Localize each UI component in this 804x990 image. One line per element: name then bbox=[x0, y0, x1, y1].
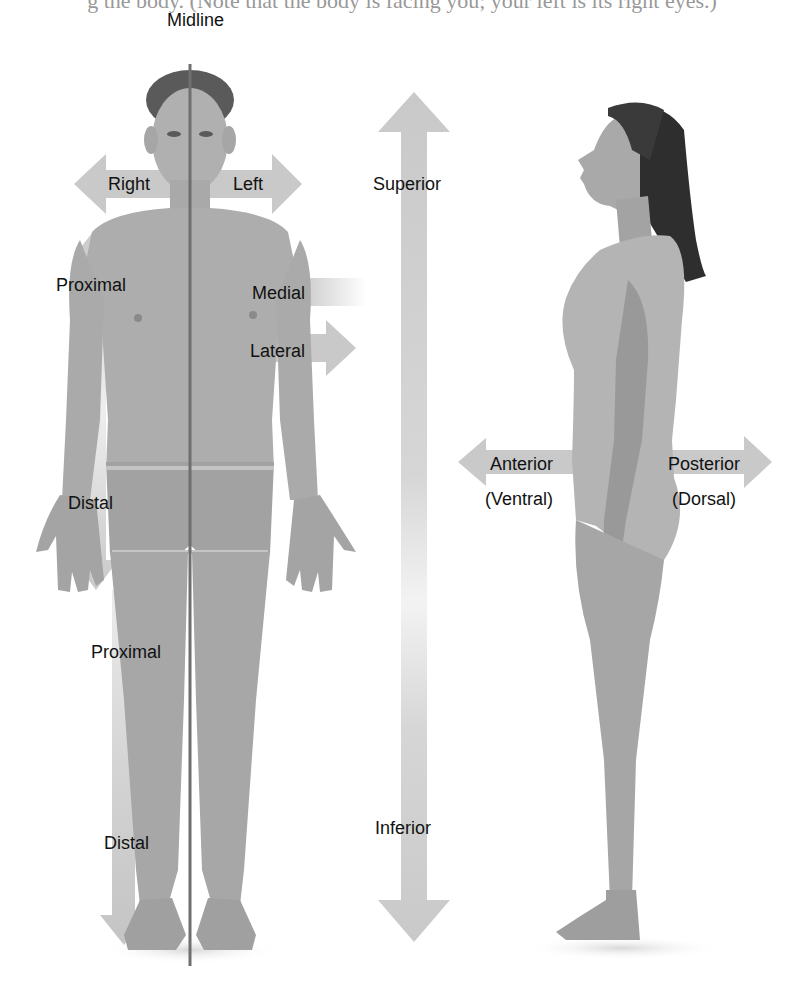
proximal-leg-label: Proximal bbox=[91, 642, 161, 662]
posterior-label: Posterior bbox=[668, 454, 740, 474]
dorsal-label: (Dorsal) bbox=[672, 489, 736, 509]
distal-leg-label: Distal bbox=[104, 833, 149, 853]
ventral-label: (Ventral) bbox=[485, 489, 553, 509]
anterior-label: Anterior bbox=[490, 454, 553, 474]
distal-arm-label: Distal bbox=[68, 493, 113, 513]
side-body-figure bbox=[522, 102, 722, 960]
superior-label: Superior bbox=[373, 174, 441, 194]
midline-label: Midline bbox=[167, 10, 224, 30]
proximal-arm-label: Proximal bbox=[56, 275, 126, 295]
front-body-figure bbox=[36, 70, 356, 964]
left-label: Left bbox=[233, 174, 263, 194]
superior-inferior-arrow bbox=[378, 92, 450, 942]
inferior-label: Inferior bbox=[375, 818, 431, 838]
lateral-label: Lateral bbox=[250, 341, 305, 361]
medial-label: Medial bbox=[252, 283, 305, 303]
right-label: Right bbox=[108, 174, 150, 194]
